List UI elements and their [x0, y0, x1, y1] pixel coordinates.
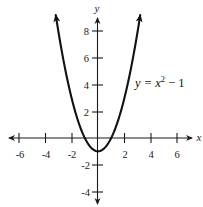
- y-tick-label: 8: [84, 26, 89, 37]
- y-tick-label: 4: [84, 80, 90, 91]
- x-tick-label: -4: [42, 149, 51, 160]
- y-tick-label: -2: [81, 160, 90, 171]
- y-tick-label: 2: [84, 107, 89, 118]
- y-tick-label: 6: [84, 53, 89, 64]
- y-axis-label: y: [94, 2, 100, 14]
- equation-suffix: − 1: [165, 76, 185, 90]
- x-tick-label: 2: [122, 149, 127, 160]
- x-tick-label: -2: [68, 149, 77, 160]
- equation-prefix: y =: [133, 76, 155, 90]
- y-tick-label: -4: [81, 187, 90, 198]
- y-tick-labels: 8 6 4 2 -2 -4: [81, 26, 90, 198]
- x-tick-label: 6: [174, 149, 179, 160]
- x-axis-label: x: [196, 131, 202, 143]
- equation-label: y = x2 − 1: [133, 74, 185, 90]
- parabola-graph: -6 -4 -2 2 4 6 8 6 4 2 -2 -4 y x y = x2 …: [0, 0, 203, 207]
- x-tick-label: -6: [16, 149, 25, 160]
- x-tick-label: 4: [148, 149, 154, 160]
